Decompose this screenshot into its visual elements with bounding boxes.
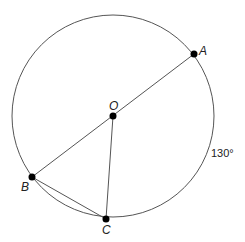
label-a: A <box>198 44 207 58</box>
point-c <box>103 216 110 223</box>
circle-diagram: A O B C 130° <box>0 0 245 242</box>
label-b: B <box>21 180 29 194</box>
point-a <box>191 51 198 58</box>
label-c: C <box>102 223 111 237</box>
radius-oc <box>106 116 113 219</box>
arc-measure-label: 130° <box>211 147 234 159</box>
point-o <box>110 113 117 120</box>
chord-bc <box>32 177 106 219</box>
point-b <box>29 174 36 181</box>
label-o: O <box>109 99 118 113</box>
